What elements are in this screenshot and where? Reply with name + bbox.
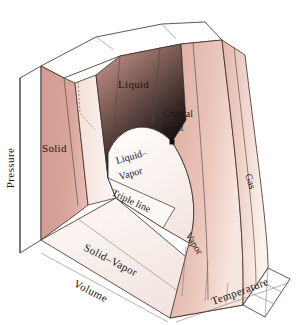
pvt-surface-figure: Solid Liquid Liquid– Vapor Solid–Vapor V… <box>0 0 305 325</box>
label-critical-point-line1: Critical <box>163 108 193 119</box>
label-critical-point-line2: point <box>163 122 184 133</box>
pvt-diagram-canvas: Solid Liquid Liquid– Vapor Solid–Vapor V… <box>0 0 305 325</box>
label-solid: Solid <box>42 142 67 154</box>
critical-point-group <box>170 140 175 145</box>
axis-label-pressure: Pressure <box>4 148 16 188</box>
left-back-plane <box>20 66 41 253</box>
axis-label-volume: Volume <box>72 277 110 304</box>
critical-point-dot <box>170 140 175 145</box>
label-liquid: Liquid <box>118 78 149 90</box>
